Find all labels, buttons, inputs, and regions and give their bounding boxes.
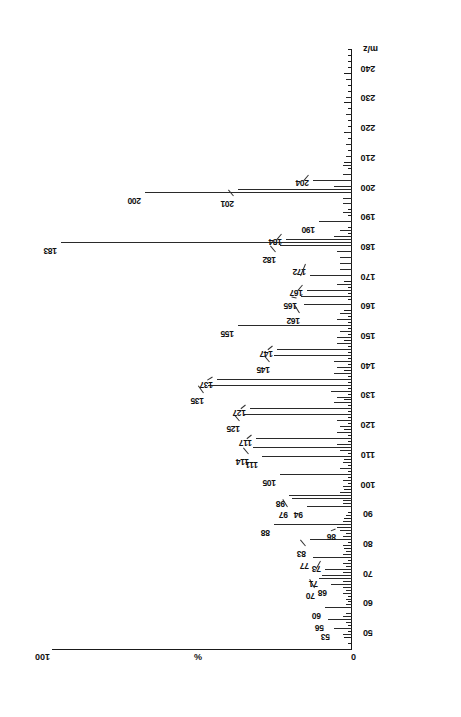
x-tick-major xyxy=(344,489,352,490)
x-tick-minor xyxy=(348,441,352,442)
x-tick-minor xyxy=(348,67,352,68)
spectrum-peak xyxy=(325,569,352,570)
spectrum-peak xyxy=(325,607,352,608)
spectrum-peak xyxy=(337,367,352,368)
spectrum-peak xyxy=(304,304,352,305)
spectrum-peak xyxy=(313,557,352,558)
x-tick-minor xyxy=(348,299,352,300)
spectrum-peak xyxy=(343,521,352,522)
spectrum-peak xyxy=(145,192,352,193)
x-tick-minor xyxy=(348,512,352,513)
x-tick-minor xyxy=(348,560,352,561)
x-tick-minor xyxy=(348,85,352,86)
spectrum-peak xyxy=(337,337,352,338)
peak-annotation: 145 xyxy=(257,365,270,375)
y-axis-zero-label: 0 xyxy=(351,652,356,662)
spectrum-peak xyxy=(319,221,352,222)
spectrum-peak xyxy=(280,245,352,246)
spectrum-peak xyxy=(340,263,352,264)
x-tick-minor xyxy=(348,209,352,210)
x-tick-label: 80 xyxy=(363,539,373,549)
x-tick-major xyxy=(344,310,352,311)
spectrum-peak xyxy=(346,97,352,98)
spectrum-peak xyxy=(337,343,352,344)
x-tick-minor xyxy=(348,423,352,424)
x-tick-label: 70 xyxy=(363,569,373,579)
x-tick-minor xyxy=(348,382,352,383)
spectrum-peak xyxy=(340,313,352,314)
spectrum-peak xyxy=(343,203,352,204)
x-tick-major xyxy=(344,73,352,74)
spectrum-peak xyxy=(301,296,352,297)
x-tick-minor xyxy=(348,150,352,151)
x-tick-minor xyxy=(348,227,352,228)
x-tick-minor xyxy=(348,417,352,418)
spectrum-peak xyxy=(313,180,352,181)
mass-spectrum-chart: 5060708090100110120130140150160170180190… xyxy=(34,30,424,690)
x-tick-label: 180 xyxy=(361,242,375,252)
spectrum-peak xyxy=(307,290,352,291)
x-tick-major xyxy=(344,637,352,638)
spectrum-peak xyxy=(343,616,352,617)
spectrum-peak xyxy=(337,251,352,252)
peak-annotation: 98 xyxy=(276,499,285,509)
x-tick-minor xyxy=(348,126,352,127)
figure-page: 5060708090100110120130140150160170180190… xyxy=(0,0,461,717)
spectrum-peak xyxy=(217,379,352,380)
spectrum-peak xyxy=(277,349,352,350)
x-tick-major xyxy=(344,429,352,430)
spectrum-peak xyxy=(331,584,352,585)
y-axis-max-label: 100 xyxy=(35,652,50,662)
peak-annotation: 204 xyxy=(296,178,309,188)
spectrum-peak xyxy=(208,385,352,386)
peak-annotation: 86 xyxy=(327,532,336,542)
x-tick-major xyxy=(344,102,352,103)
x-tick-minor xyxy=(348,49,352,50)
peak-annotation: 71 xyxy=(309,579,318,589)
x-tick-label: 190 xyxy=(361,212,375,222)
spectrum-peak xyxy=(346,79,352,80)
peak-annotation: 114 xyxy=(236,457,249,467)
x-tick-label: 240 xyxy=(361,64,375,74)
x-tick-minor xyxy=(348,643,352,644)
x-tick-major xyxy=(344,400,352,401)
x-tick-label: 130 xyxy=(361,391,375,401)
spectrum-peak xyxy=(244,414,352,415)
annotation-leader-line xyxy=(228,189,234,196)
x-tick-minor xyxy=(348,108,352,109)
peak-annotation: 200 xyxy=(128,196,141,206)
spectrum-peak xyxy=(346,515,352,516)
x-tick-minor xyxy=(348,364,352,365)
spectrum-peak xyxy=(343,545,352,546)
x-tick-minor xyxy=(348,334,352,335)
x-tick-minor xyxy=(348,465,352,466)
spectrum-peak xyxy=(334,628,352,629)
spectrum-peak xyxy=(346,604,352,605)
x-tick-minor xyxy=(348,352,352,353)
spectrum-peak xyxy=(340,331,352,332)
x-tick-minor xyxy=(348,405,352,406)
plot-area: 5060708090100110120130140150160170180190… xyxy=(52,50,352,650)
spectrum-peak xyxy=(343,501,352,502)
spectrum-peak xyxy=(340,492,352,493)
spectrum-peak xyxy=(343,462,352,463)
spectrum-peak xyxy=(343,587,352,588)
spectrum-peak xyxy=(337,444,352,445)
spectrum-peak xyxy=(250,408,352,409)
peak-annotation: 182 xyxy=(263,255,276,265)
annotation-leader-line xyxy=(300,540,306,547)
peak-annotation: 94 xyxy=(294,510,303,520)
peak-annotation: 155 xyxy=(221,329,234,339)
spectrum-peak xyxy=(238,189,352,190)
x-tick-label: 50 xyxy=(363,628,373,638)
x-tick-minor xyxy=(348,376,352,377)
x-tick-label: 60 xyxy=(363,598,373,608)
peak-annotation: 125 xyxy=(227,424,240,434)
spectrum-peak xyxy=(346,590,352,591)
x-tick-minor xyxy=(348,542,352,543)
y-axis-line xyxy=(52,649,352,650)
spectrum-peak xyxy=(310,275,352,276)
spectrum-peak xyxy=(337,319,352,320)
x-tick-major xyxy=(344,281,352,282)
x-tick-label: 160 xyxy=(361,301,375,311)
